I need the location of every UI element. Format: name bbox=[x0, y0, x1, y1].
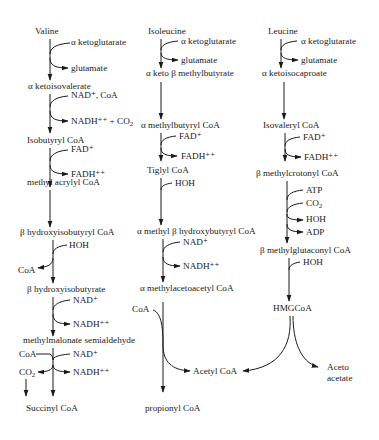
coa-in-label: CoA bbox=[19, 349, 37, 359]
b-hydroxyisobutyrate-label: β hydroxyisobutyrate bbox=[27, 284, 105, 294]
succinyl-coa-label: Succinyl CoA bbox=[26, 403, 78, 413]
co2-label: CO2 bbox=[19, 367, 36, 379]
leucine-label: Leucine bbox=[268, 26, 298, 36]
cofactor-in-arc bbox=[50, 150, 68, 161]
nadh-label: NADH⁺⁺ bbox=[73, 319, 109, 329]
hoh-in-arc bbox=[53, 245, 67, 254]
nadh-out-arc bbox=[53, 314, 70, 324]
b-methylcrotonyl-coa-label: β methylcrotonyl CoA bbox=[256, 168, 339, 178]
nad-label: NAD⁺ bbox=[183, 237, 208, 247]
nad-in-arc bbox=[53, 300, 70, 310]
isovaleryl-coa-label: Isovaleryl CoA bbox=[263, 120, 320, 130]
nadh-out-arc bbox=[163, 257, 180, 266]
co2-in-arc bbox=[287, 203, 303, 212]
acetate-label: acetate bbox=[327, 373, 353, 383]
adp-out-arc bbox=[287, 224, 303, 232]
fadh-out-arc bbox=[161, 148, 177, 156]
hoh-label: HOH bbox=[175, 178, 195, 188]
glutamate-label: glutamate bbox=[301, 55, 337, 65]
methylmalonate-semialdehyde-label: methylmalonate semialdehyde bbox=[23, 335, 135, 345]
aceto-label: Aceto bbox=[327, 362, 349, 372]
a-methylacetoacetyl-coa-label: α methylacetoacetyl CoA bbox=[140, 283, 234, 293]
cofactor-out-arc bbox=[161, 53, 178, 60]
tiglyl-coa-label: Tiglyl CoA bbox=[147, 165, 189, 175]
fadh-label: FADH⁺⁺ bbox=[304, 152, 338, 162]
a-ketoglutarate-label: α ketoglutarate bbox=[71, 37, 126, 47]
cofactor-in-arc bbox=[50, 96, 68, 107]
propionyl-coa-label: propionyl CoA bbox=[145, 403, 201, 413]
acetyl-coa-label: Acetyl CoA bbox=[193, 366, 238, 376]
cofactor-out-arc bbox=[50, 165, 68, 174]
fad-label: FAD⁺ bbox=[179, 131, 202, 141]
fad-label: FAD⁺ bbox=[71, 144, 94, 154]
nad-label: NAD⁺ bbox=[73, 349, 98, 359]
hmgcoa-to-acetoacetate-arc bbox=[293, 316, 318, 367]
b-hydroxyisobutyryl-coa-label: β hydroxyisobutyryl CoA bbox=[20, 227, 115, 237]
nad-in-arc bbox=[53, 354, 70, 360]
a-ketoglutarate-label: α ketoglutarate bbox=[181, 36, 236, 46]
co2-out-arc bbox=[38, 365, 53, 372]
cofactor-out-arc bbox=[50, 58, 68, 68]
nadh-label: NADH⁺⁺ bbox=[73, 367, 109, 377]
a-ketoglutarate-label: α ketoglutarate bbox=[301, 36, 356, 46]
fad-label: FAD⁺ bbox=[303, 132, 326, 142]
cofactor-out-arc bbox=[50, 111, 68, 121]
hoh-in-arc bbox=[289, 262, 300, 270]
atp-in-arc bbox=[287, 190, 303, 200]
a-methyl-b-hydroxybutyryl-coa-label: α methyl β hydroxybutyryl CoA bbox=[137, 226, 256, 236]
nadh-label: NADH⁺⁺ bbox=[183, 261, 219, 271]
nad-in-arc bbox=[163, 242, 180, 252]
fadh-label: FADH⁺⁺ bbox=[181, 151, 215, 161]
cofactor-in-arc bbox=[161, 41, 178, 50]
glutamate-label: glutamate bbox=[181, 55, 217, 65]
isoleucine-pathway: Isoleucine α ketoglutarate glutamate α k… bbox=[132, 26, 256, 413]
hoh-label: HOH bbox=[69, 240, 89, 250]
adp-label: ADP bbox=[306, 227, 324, 237]
fad-in-arc bbox=[161, 136, 176, 145]
valine-pathway: Valine α ketoglutarate glutamate α ketoi… bbox=[18, 26, 135, 413]
a-keto-b-methylbutyrate-label: α keto β methylbutyrate bbox=[146, 68, 234, 78]
b-methylglutaconyl-coa-label: β methylglutaconyl CoA bbox=[260, 245, 351, 255]
cofactor-out-arc bbox=[281, 53, 298, 60]
isoleucine-label: Isoleucine bbox=[148, 26, 186, 36]
fad-in-arc bbox=[285, 137, 300, 146]
hoh-label: HOH bbox=[303, 257, 323, 267]
hmgcoa-to-acetyl-coa-arc bbox=[243, 316, 290, 371]
nad-coa-label: NAD⁺, CoA bbox=[71, 90, 118, 100]
leucine-pathway: Leucine α ketoglutarate glutamate α keto… bbox=[243, 26, 356, 383]
cofactor-in-arc bbox=[50, 43, 70, 54]
hmgcoa-label: HMGCoA bbox=[273, 303, 312, 313]
hoh-out-label: HOH bbox=[306, 214, 326, 224]
a-methylbutyryl-coa-label: α methylbutyryl CoA bbox=[141, 120, 220, 130]
bcaa-catabolism-diagram: Valine α ketoglutarate glutamate α ketoi… bbox=[0, 0, 379, 440]
fadh-out-arc bbox=[285, 149, 301, 157]
nadh-out-arc bbox=[53, 365, 70, 372]
coa-out-arc bbox=[38, 258, 53, 268]
coa-label: CoA bbox=[132, 304, 150, 314]
a-ketoisocaproate-label: α ketoisocaproate bbox=[262, 68, 327, 78]
nad-label: NAD⁺ bbox=[73, 295, 98, 305]
co2-label: CO2 bbox=[306, 198, 323, 210]
hoh-out-arc bbox=[287, 214, 303, 220]
valine-label: Valine bbox=[35, 26, 58, 36]
coa-to-acetyl-coa-arc bbox=[153, 310, 190, 371]
methyl-acrylyl-coa-label: methyl acrylyl CoA bbox=[27, 177, 100, 187]
atp-label: ATP bbox=[306, 185, 322, 195]
cofactor-in-arc bbox=[281, 41, 297, 50]
nadh-co2-label: NADH⁺⁺ + CO2 bbox=[71, 116, 134, 128]
glutamate-label: glutamate bbox=[71, 63, 107, 73]
coa-label: CoA bbox=[18, 265, 36, 275]
hoh-in-arc bbox=[161, 183, 172, 190]
